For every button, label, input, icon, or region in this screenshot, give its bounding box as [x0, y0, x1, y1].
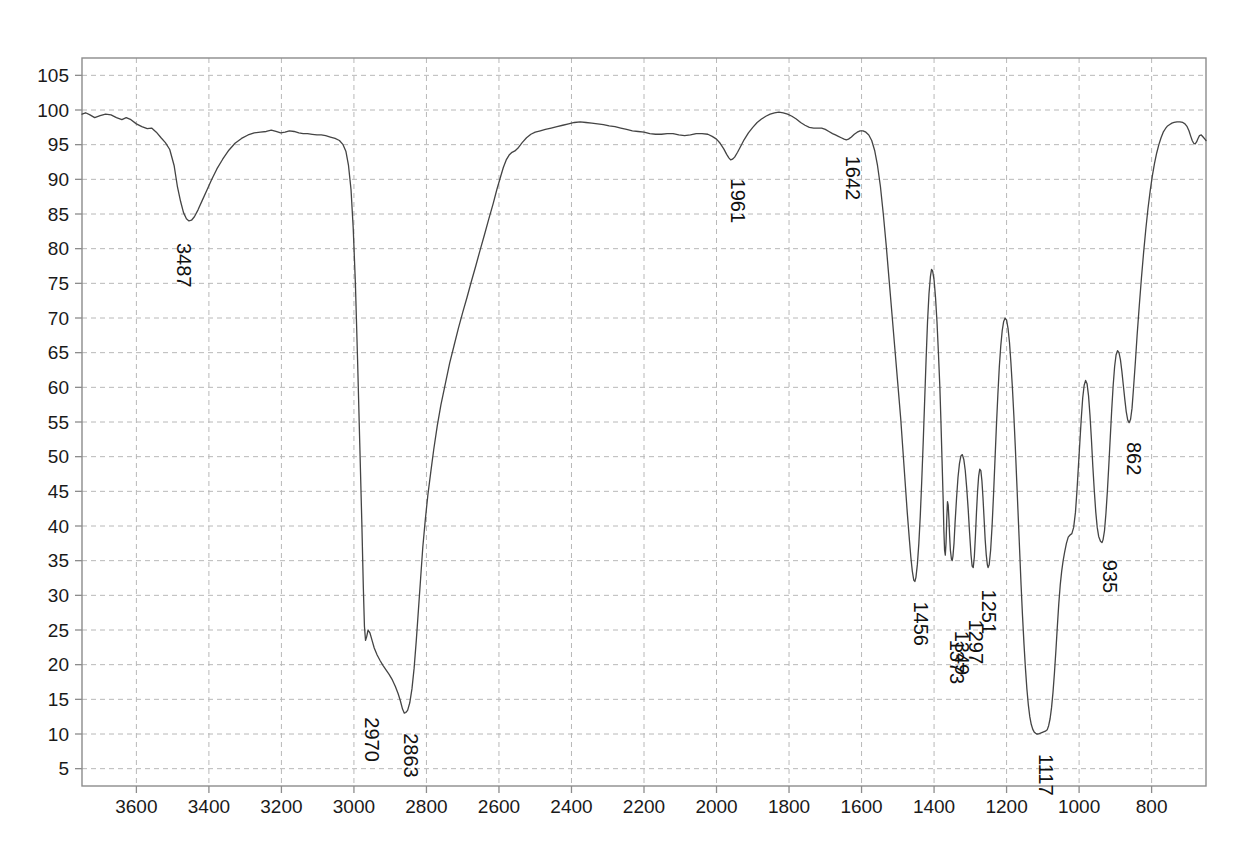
y-tick-marks	[75, 75, 82, 768]
y-tick-label: 45	[48, 481, 69, 502]
x-tick-label: 3200	[260, 796, 302, 817]
x-tick-label: 2800	[405, 796, 447, 817]
ir-spectrum-page: 3600340032003000280026002400220020001800…	[0, 0, 1251, 849]
y-tick-label: 95	[48, 134, 69, 155]
x-axis-tick-labels: 3600340032003000280026002400220020001800…	[115, 796, 1167, 817]
x-tick-label: 2000	[695, 796, 737, 817]
x-tick-label: 2200	[623, 796, 665, 817]
x-tick-label: 800	[1136, 796, 1168, 817]
y-tick-label: 35	[48, 550, 69, 571]
y-tick-label: 70	[48, 308, 69, 329]
peak-label-1642: 1642	[842, 156, 864, 201]
y-tick-label: 5	[58, 758, 69, 779]
x-tick-label: 2600	[478, 796, 520, 817]
chart-background	[0, 0, 1251, 849]
y-tick-label: 10	[48, 724, 69, 745]
y-tick-label: 30	[48, 585, 69, 606]
y-tick-label: 55	[48, 412, 69, 433]
peak-label-2863: 2863	[400, 733, 422, 778]
peak-label-3487: 3487	[173, 243, 195, 288]
y-tick-label: 105	[37, 65, 69, 86]
y-tick-label: 90	[48, 169, 69, 190]
y-tick-label: 40	[48, 516, 69, 537]
peak-label-862: 862	[1123, 442, 1145, 475]
y-tick-label: 25	[48, 620, 69, 641]
x-tick-label: 1400	[913, 796, 955, 817]
y-tick-label: 15	[48, 689, 69, 710]
x-tick-label: 1000	[1058, 796, 1100, 817]
y-tick-label: 50	[48, 446, 69, 467]
peak-label-1961: 1961	[727, 179, 749, 224]
peak-label-1456: 1456	[910, 601, 932, 646]
x-tick-label: 3000	[333, 796, 375, 817]
y-tick-label: 60	[48, 377, 69, 398]
peak-label-2970: 2970	[361, 717, 383, 762]
peak-label-1251: 1251	[978, 590, 1000, 635]
y-tick-label: 75	[48, 273, 69, 294]
peak-label-935: 935	[1099, 560, 1121, 593]
y-tick-label: 80	[48, 238, 69, 259]
x-tick-label: 2400	[550, 796, 592, 817]
x-tick-label: 3400	[188, 796, 230, 817]
ir-spectrum-chart: 3600340032003000280026002400220020001800…	[0, 0, 1251, 849]
x-tick-label: 3600	[115, 796, 157, 817]
y-tick-label: 100	[37, 100, 69, 121]
y-tick-label: 85	[48, 204, 69, 225]
x-tick-label: 1800	[768, 796, 810, 817]
y-tick-label: 65	[48, 342, 69, 363]
peak-label-1117: 1117	[1035, 754, 1057, 796]
y-tick-label: 20	[48, 654, 69, 675]
x-tick-label: 1200	[985, 796, 1027, 817]
x-tick-label: 1600	[840, 796, 882, 817]
